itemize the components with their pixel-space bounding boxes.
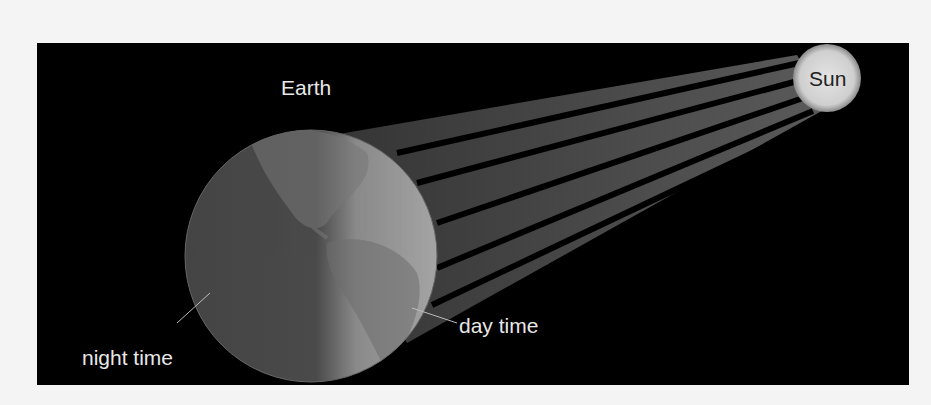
night-time-label: night time (82, 347, 173, 368)
earth-label: Earth (281, 77, 331, 98)
diagram-panel: Earth Sun day time night time (37, 43, 909, 385)
earth-globe (185, 128, 437, 382)
day-time-label: day time (459, 315, 538, 336)
sun-label: Sun (809, 68, 846, 89)
